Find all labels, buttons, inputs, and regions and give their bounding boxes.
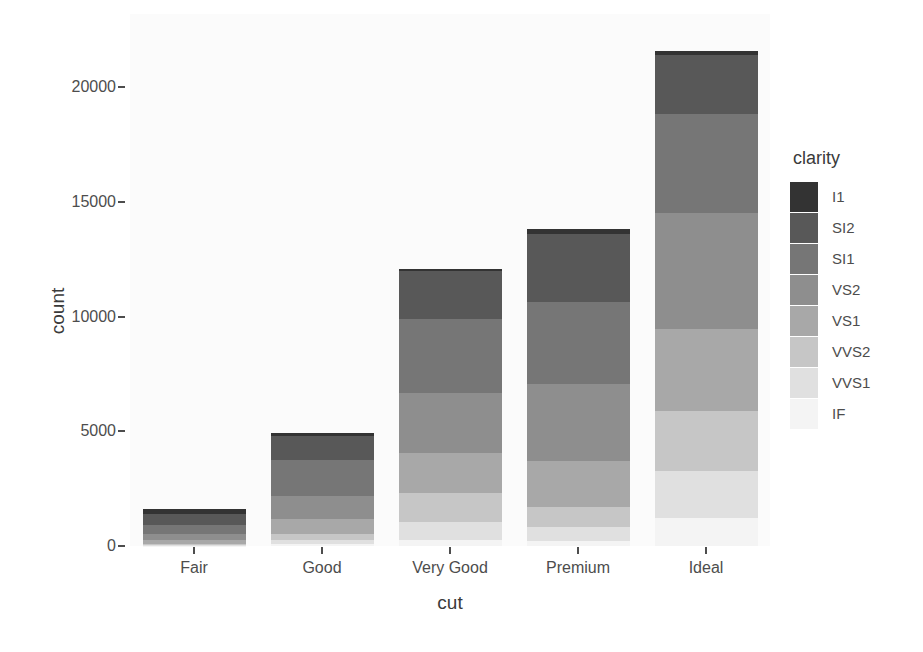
y-tick-label: 20000 xyxy=(72,77,117,97)
y-tick-mark xyxy=(118,201,125,203)
y-tick-label: 5000 xyxy=(80,421,116,441)
legend-swatch-vvs2 xyxy=(790,337,818,367)
legend-label: VS2 xyxy=(832,281,860,298)
legend-title: clarity xyxy=(793,148,920,169)
y-tick-mark xyxy=(118,86,125,88)
y-tick-mark xyxy=(118,430,125,432)
bar-segment-si2[interactable] xyxy=(271,436,374,461)
x-tick-mark xyxy=(193,547,195,554)
legend-label: SI2 xyxy=(832,219,855,236)
x-tick-mark xyxy=(321,547,323,554)
legend-swatch-si1 xyxy=(790,244,818,274)
legend-label: VS1 xyxy=(832,312,860,329)
x-axis-title: cut xyxy=(130,592,770,614)
y-tick-label: 15000 xyxy=(72,192,117,212)
x-tick-label: Fair xyxy=(124,559,264,577)
bar-segment-vvs1[interactable] xyxy=(399,522,502,540)
bar-segment-si1[interactable] xyxy=(399,319,502,393)
legend-swatch-i1 xyxy=(790,182,818,212)
legend-item-i1[interactable]: I1 xyxy=(790,181,920,212)
bar-segment-if[interactable] xyxy=(271,544,374,546)
legend-item-si1[interactable]: SI1 xyxy=(790,243,920,274)
legend-item-vs2[interactable]: VS2 xyxy=(790,274,920,305)
bar-segment-vs2[interactable] xyxy=(399,393,502,452)
bar-segment-si1[interactable] xyxy=(655,114,758,212)
x-tick-mark xyxy=(449,547,451,554)
y-tick-mark xyxy=(118,316,125,318)
bar-segment-vs2[interactable] xyxy=(527,384,630,461)
y-axis-title: count xyxy=(47,241,69,381)
bar-segment-if[interactable] xyxy=(399,540,502,546)
legend-label: VVS1 xyxy=(832,374,870,391)
bar-segment-vs2[interactable] xyxy=(271,496,374,518)
bar-segment-si1[interactable] xyxy=(271,460,374,496)
legend-swatch-if xyxy=(790,399,818,429)
legend: clarity I1SI2SI1VS2VS1VVS2VVS1IF xyxy=(790,148,920,429)
legend-swatch-vvs1 xyxy=(790,368,818,398)
bar-segment-vvs1[interactable] xyxy=(527,527,630,541)
bar-segment-si2[interactable] xyxy=(527,234,630,302)
bar-segment-si2[interactable] xyxy=(143,514,246,525)
x-tick-label: Very Good xyxy=(380,559,520,577)
bar-segment-vvs1[interactable] xyxy=(655,471,758,518)
bar-segment-si1[interactable] xyxy=(143,525,246,534)
bar-segment-vs1[interactable] xyxy=(527,461,630,507)
legend-item-vvs2[interactable]: VVS2 xyxy=(790,336,920,367)
y-tick-label: 0 xyxy=(107,536,116,556)
legend-label: VVS2 xyxy=(832,343,870,360)
bar-segment-vs2[interactable] xyxy=(655,213,758,329)
legend-label: SI1 xyxy=(832,250,855,267)
x-tick-label: Good xyxy=(252,559,392,577)
legend-label: IF xyxy=(832,405,845,422)
legend-swatch-si2 xyxy=(790,213,818,243)
bar-ideal[interactable] xyxy=(655,14,758,546)
legend-label: I1 xyxy=(832,188,845,205)
bar-segment-vvs2[interactable] xyxy=(399,493,502,521)
x-tick-label: Ideal xyxy=(636,559,776,577)
bar-segment-si2[interactable] xyxy=(399,271,502,319)
bar-segment-vvs2[interactable] xyxy=(655,411,758,471)
bar-segment-vs1[interactable] xyxy=(399,453,502,494)
legend-item-vs1[interactable]: VS1 xyxy=(790,305,920,336)
legend-items: I1SI2SI1VS2VS1VVS2VVS1IF xyxy=(790,181,920,429)
bar-good[interactable] xyxy=(271,14,374,546)
bar-segment-vs1[interactable] xyxy=(271,519,374,534)
legend-swatch-vs2 xyxy=(790,275,818,305)
bar-segment-vvs2[interactable] xyxy=(527,507,630,527)
bar-segment-si2[interactable] xyxy=(655,55,758,115)
legend-swatch-vs1 xyxy=(790,306,818,336)
stacked-bar-chart: 05000100001500020000 FairGoodVery GoodPr… xyxy=(0,0,923,652)
bar-very-good[interactable] xyxy=(399,14,502,546)
x-tick-label: Premium xyxy=(508,559,648,577)
bar-segment-if[interactable] xyxy=(655,518,758,546)
x-tick-mark xyxy=(577,547,579,554)
legend-item-vvs1[interactable]: VVS1 xyxy=(790,367,920,398)
bar-premium[interactable] xyxy=(527,14,630,546)
legend-item-if[interactable]: IF xyxy=(790,398,920,429)
y-tick-label: 10000 xyxy=(72,307,117,327)
bar-segment-if[interactable] xyxy=(527,541,630,546)
x-tick-mark xyxy=(705,547,707,554)
y-tick-mark xyxy=(118,545,125,547)
bar-fair[interactable] xyxy=(143,14,246,546)
legend-item-si2[interactable]: SI2 xyxy=(790,212,920,243)
bar-segment-vs1[interactable] xyxy=(655,329,758,411)
bar-segment-si1[interactable] xyxy=(527,302,630,384)
